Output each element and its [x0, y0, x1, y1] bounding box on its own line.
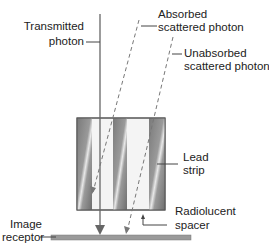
- transmitted-arrowhead: [95, 225, 105, 235]
- lead-strip-1: [77, 118, 92, 210]
- receptor-label-2: receptor: [2, 231, 44, 243]
- unabsorbed-label-1: Unabsorbed: [184, 47, 247, 59]
- lead-strip-2: [113, 118, 127, 210]
- spacer-label-2: spacer: [175, 219, 210, 231]
- unabsorbed-arrowhead: [124, 226, 130, 234]
- absorbed-label-1: Absorbed: [158, 8, 207, 20]
- lead-strip-label-2: strip: [183, 164, 205, 176]
- spacer-leader: [143, 218, 167, 225]
- grid-diagram: Transmitted photon Absorbed scattered ph…: [0, 0, 269, 246]
- transmitted-label-1: Transmitted: [24, 20, 84, 32]
- grid: [77, 118, 165, 210]
- lead-strip-label-1: Lead: [183, 151, 209, 163]
- image-receptor: [51, 235, 191, 240]
- absorbed-label-2: scattered photon: [158, 21, 244, 33]
- transmitted-label-2: photon: [49, 35, 84, 47]
- receptor-label-1: Image: [10, 218, 42, 230]
- unabsorbed-label-2: scattered photon: [184, 60, 269, 72]
- spacer-label-1: Radiolucent: [175, 205, 237, 217]
